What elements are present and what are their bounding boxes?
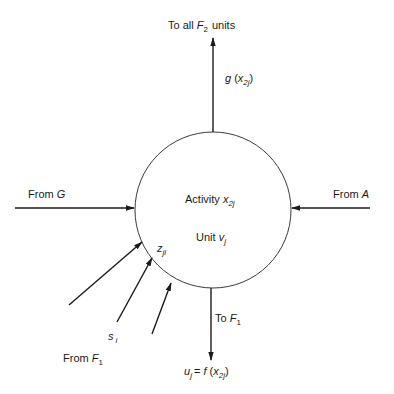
output-equation: uj= f (x2j): [184, 365, 229, 380]
diagram-canvas: To all F2units g (x2j) From G From A Act…: [0, 0, 394, 394]
activity-label: Activity x2j: [185, 193, 235, 208]
unit-circle: [135, 132, 291, 288]
weight-label: zji: [156, 242, 166, 257]
f1-input-arrow-3: [152, 283, 171, 334]
left-input-label: From G: [28, 188, 66, 200]
bottom-output-label: To F1: [215, 312, 241, 327]
input-signal-label: si: [108, 330, 118, 345]
top-output-label: To all F2units: [168, 19, 236, 34]
top-signal-label: g (x2j): [225, 72, 253, 87]
right-input-label: From A: [333, 188, 369, 200]
f1-input-arrow-2: [117, 258, 152, 322]
unit-label: Unit vj: [196, 231, 226, 246]
f1-input-label: From F1: [63, 352, 103, 367]
